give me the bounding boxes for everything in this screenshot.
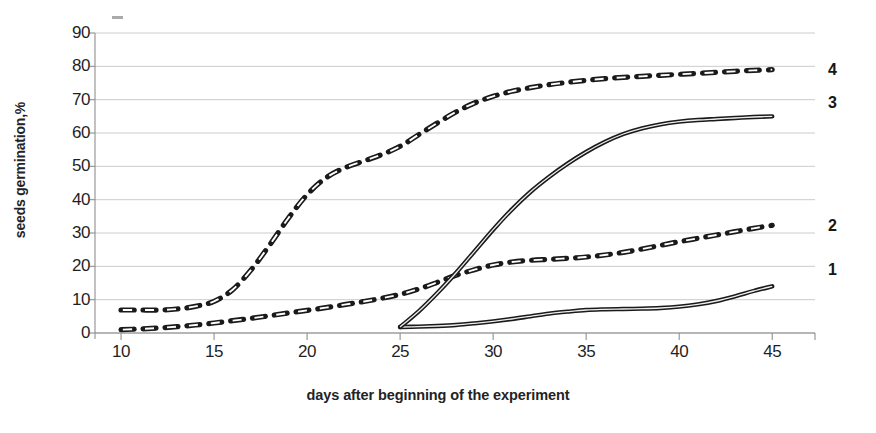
series-label-2: 2	[828, 217, 858, 235]
x-tick-label: 15	[184, 342, 244, 362]
x-tick-label: 10	[91, 342, 151, 362]
x-tick-label: 40	[649, 342, 709, 362]
chart-container: seeds germination,% 9080706050403020100 …	[0, 0, 876, 433]
x-tick-label: 45	[742, 342, 802, 362]
x-tick-label: 35	[556, 342, 616, 362]
x-axis-title: days after beginning of the experiment	[0, 387, 876, 403]
x-tick-label: 20	[277, 342, 337, 362]
x-tick-label: 25	[370, 342, 430, 362]
series-label-1: 1	[828, 261, 858, 279]
series-label-3: 3	[828, 94, 858, 112]
x-tick-label: 30	[463, 342, 523, 362]
series-label-4: 4	[828, 61, 858, 79]
x-axis-tick-labels: 1015202530354045	[0, 0, 876, 433]
